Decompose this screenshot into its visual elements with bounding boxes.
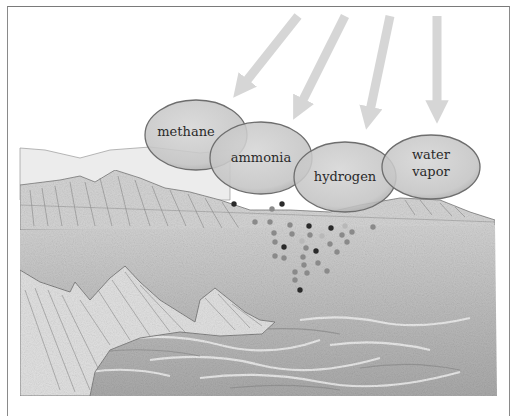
molecule-dot bbox=[319, 233, 324, 238]
molecule-dot bbox=[252, 219, 257, 224]
molecule-dot bbox=[299, 238, 304, 243]
molecule-dot bbox=[370, 224, 375, 229]
molecule-dot bbox=[334, 249, 339, 254]
molecule-dot bbox=[324, 268, 329, 273]
molecule-dot bbox=[315, 260, 320, 265]
gas-bubble-hydrogen: hydrogen bbox=[294, 142, 396, 212]
molecule-dot bbox=[269, 206, 274, 211]
molecule-dot bbox=[231, 201, 236, 206]
molecule-dot bbox=[328, 225, 333, 230]
molecule-dot bbox=[267, 219, 272, 224]
gas-bubble-water-vapor: watervapor bbox=[382, 135, 480, 199]
molecule-dot bbox=[292, 277, 297, 282]
molecule-dot bbox=[292, 269, 297, 274]
molecule-dot bbox=[313, 248, 318, 253]
energy-arrows bbox=[240, 16, 437, 118]
molecule-dot bbox=[339, 232, 344, 237]
energy-arrow-1 bbox=[240, 16, 298, 89]
molecule-dot bbox=[344, 239, 349, 244]
molecule-dot bbox=[279, 201, 284, 206]
molecule-dot bbox=[281, 255, 286, 260]
gas-label: ammonia bbox=[231, 150, 292, 165]
gas-label: methane bbox=[157, 124, 215, 139]
molecule-dot bbox=[306, 223, 311, 228]
gas-label: water bbox=[412, 147, 451, 162]
molecule-dot bbox=[300, 254, 305, 259]
molecule-dot bbox=[304, 270, 309, 275]
molecule-dot bbox=[303, 245, 308, 250]
molecule-dot bbox=[342, 223, 347, 228]
molecule-dot bbox=[272, 239, 277, 244]
molecule-dot bbox=[272, 253, 277, 258]
molecule-dot bbox=[307, 232, 312, 237]
molecule-dot bbox=[297, 287, 302, 292]
molecule-dot bbox=[281, 244, 286, 249]
molecule-dot bbox=[349, 229, 354, 234]
molecule-dot bbox=[289, 231, 294, 236]
molecule-dot bbox=[287, 222, 292, 227]
molecule-dot bbox=[327, 241, 332, 246]
molecule-dot bbox=[301, 262, 306, 267]
gas-label: hydrogen bbox=[314, 169, 377, 184]
energy-arrow-3 bbox=[368, 16, 390, 118]
energy-arrow-2 bbox=[298, 16, 345, 109]
gas-label: vapor bbox=[411, 164, 450, 179]
molecule-dot bbox=[271, 230, 276, 235]
